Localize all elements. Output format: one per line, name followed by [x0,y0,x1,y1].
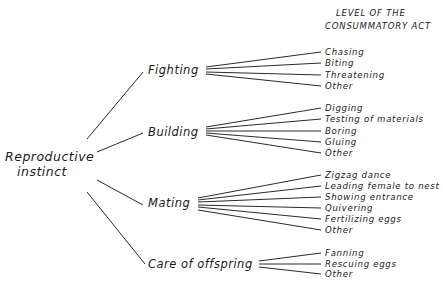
act-rescuing-eggs: Rescuing eggs [325,260,397,269]
root-label-line-2: instinct [17,166,67,179]
act-zigzag-dance: Zigzag dance [325,171,391,180]
act-fanning: Fanning [325,249,364,258]
act-building-other: Other [325,149,353,158]
connector-root-mating [97,180,143,205]
act-gluing: Gluing [325,138,357,147]
category-building: Building [148,127,199,139]
act-digging: Digging [325,104,363,113]
header-line-2: CONSUMMATORY ACT [325,22,431,31]
act-threatening: Threatening [325,71,385,80]
act-care-other: Other [325,270,353,279]
category-fighting: Fighting [148,65,199,77]
act-fighting-other: Other [325,82,353,91]
act-fertilizing-eggs: Fertilizing eggs [325,215,402,224]
act-quivering: Quivering [325,204,373,213]
connector-root-care [87,192,145,264]
header-line-1: LEVEL OF THE [336,9,406,18]
act-boring: Boring [325,127,357,136]
act-showing-entrance: Showing entrance [325,193,414,202]
act-testing-of-materials: Testing of materials [325,115,424,124]
act-biting: Biting [325,59,354,68]
act-chasing: Chasing [325,48,364,57]
act-leading-female-to-nest: Leading female to nest [325,182,440,191]
root-label-line-1: Reproductive [5,151,94,164]
connector-root-fighting [87,72,143,139]
act-mating-other: Other [325,226,353,235]
category-care-of-offspring: Care of offspring [148,259,253,271]
category-mating: Mating [148,198,190,210]
hierarchy-diagram: LEVEL OF THE CONSUMMATORY ACT Reproducti… [0,0,443,284]
connector-lines [0,0,443,284]
connector-root-building [97,133,143,152]
